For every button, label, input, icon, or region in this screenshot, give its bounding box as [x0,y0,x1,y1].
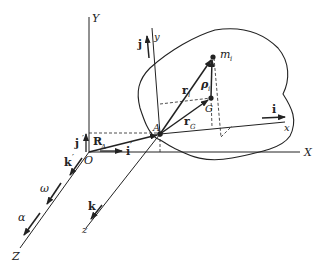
rigid-body-outline [138,29,294,160]
label-z: z [81,224,88,235]
vector-rho-i [211,60,212,97]
label-i: i [272,103,276,116]
label-omega: ω [40,182,49,195]
label-x: x [284,122,290,133]
label-alpha: α [18,211,26,224]
x-axis [160,122,285,134]
z-axis [86,134,160,228]
y-axis [152,28,160,134]
label-Y: Y [92,12,101,25]
unit-i [262,117,285,118]
label-G: G [205,103,213,114]
label-k: k [88,200,96,213]
label-m-sub: i [230,55,232,63]
point-G [208,95,213,100]
label-A: A [152,122,160,133]
label-R-sub: A [100,143,106,151]
label-j-prime-mark: ′ [82,134,84,144]
point-m-i [210,54,215,59]
unit-j [147,36,149,58]
label-X: X [303,146,313,159]
label-i-prime-mark: ′ [130,141,132,151]
label-r-i-sub: i [188,91,190,99]
label-m: m [220,48,230,61]
label-Z: Z [11,250,20,263]
label-j: j [137,38,142,51]
Z-axis [20,152,89,248]
label-y: y [153,31,160,42]
label-r-G-sub: G [190,123,196,131]
label-k-prime: k [64,156,72,169]
label-O: O [84,154,93,167]
label-j-prime: j [74,137,79,150]
label-k-prime-mark: ′ [72,153,74,163]
label-rho-sub: i [208,85,210,93]
rigid-body-diagram: Y X Z O A y x z j i k j ′ i ′ k ′ ω α R … [0,0,320,266]
dashed-m-down [214,58,221,137]
